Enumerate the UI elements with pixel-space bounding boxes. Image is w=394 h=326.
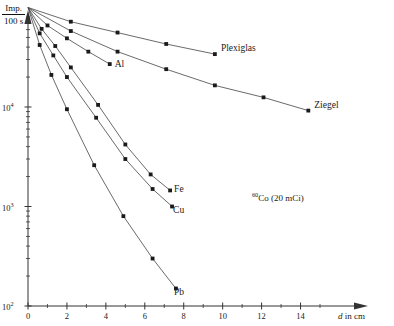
x-axis-tick-label: 8 [175,312,193,321]
series-label-al: Al [115,60,125,70]
plot-canvas [0,0,394,326]
data-point [306,109,310,113]
series-label-pb: Pb [174,288,184,298]
data-point [51,54,55,58]
x-axis-label: d in cm [338,312,365,321]
data-point [149,173,153,177]
data-point [86,50,90,54]
series-line-cu [28,8,172,207]
data-point [65,75,69,79]
data-point [92,163,96,167]
data-point [69,20,73,24]
series-label-fe: Fe [174,185,184,195]
data-point [164,42,168,46]
data-point [121,214,125,218]
series-line-fe [28,8,170,191]
series-label-cu: Cu [173,206,184,216]
x-axis-arrowhead [354,302,368,309]
data-point [65,107,69,111]
y-axis-label-denominator: 100 s [2,14,25,26]
data-point [108,62,112,66]
y-axis-tick-label: 102 [2,301,14,311]
x-axis-tick-label: 12 [253,312,271,321]
data-point [164,67,168,71]
data-point [69,66,73,70]
y-axis-label: Imp. 100 s [2,3,25,26]
attenuation-chart: Imp. 100 s 60Co (20 mCi) d in cm 1021031… [0,0,394,326]
y-axis-tick-label: 104 [2,102,14,112]
data-point [53,44,57,48]
data-point [123,157,127,161]
y-axis-tick-label: 103 [2,202,14,212]
data-point [38,43,42,47]
data-point [213,83,217,87]
x-axis-tick-label: 4 [97,312,115,321]
data-point [94,116,98,120]
x-axis-tick-label: 10 [214,312,232,321]
series-label-ziegel: Ziegel [314,101,338,111]
data-point [168,189,172,193]
data-point [151,187,155,191]
x-axis-tick-label: 14 [292,312,310,321]
data-point [116,50,120,54]
data-point [262,95,266,99]
data-point [96,103,100,107]
data-point [213,52,217,56]
x-axis-tick-label: 6 [136,312,154,321]
series-line-al [28,8,110,65]
data-point [69,29,73,33]
data-point [38,31,42,35]
series-label-plexiglas: Plexiglas [221,44,256,54]
x-axis-tick-label: 0 [19,312,37,321]
data-point [46,24,50,28]
x-axis-tick-label: 2 [58,312,76,321]
y-axis-label-numerator: Imp. [2,3,25,14]
data-point [151,257,155,261]
source-annotation: 60Co (20 mCi) [252,192,304,203]
data-point [65,36,69,40]
data-point [49,73,53,77]
data-point [123,143,127,147]
data-point [116,31,120,35]
data-point [40,27,44,31]
